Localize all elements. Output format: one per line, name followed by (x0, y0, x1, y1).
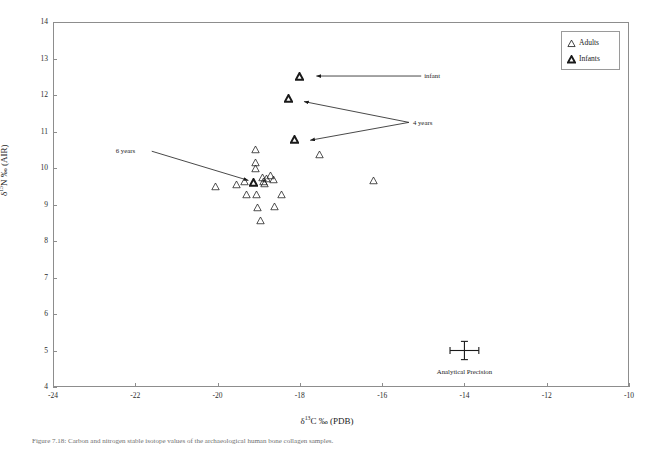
bold-triangle-icon (567, 50, 576, 68)
analytical-precision-label: Analytical Precision (384, 368, 544, 375)
y-tick-label: 11 (18, 128, 48, 136)
y-tick-label: 12 (18, 91, 48, 99)
x-tick-mark (464, 383, 465, 387)
legend-label-adults: Adults (579, 39, 599, 47)
x-tick-mark (53, 383, 54, 387)
legend-label-infants: Infants (579, 55, 600, 63)
x-tick-mark (629, 383, 630, 387)
y-tick-mark (53, 95, 57, 96)
y-tick-label: 9 (18, 201, 48, 209)
data-point-adults (242, 190, 251, 199)
x-tick-label: -18 (280, 392, 320, 400)
data-point-adults (270, 202, 279, 211)
callout-label-infant: infant (424, 73, 440, 80)
data-point-adults (251, 145, 260, 154)
legend: Adults Infants (561, 31, 620, 70)
figure-caption: Figure 7.18: Carbon and nitrogen stable … (32, 437, 632, 449)
y-tick-label: 7 (18, 274, 48, 282)
y-tick-mark (53, 59, 57, 60)
data-point-infants (249, 178, 258, 187)
x-tick-label: -20 (198, 392, 238, 400)
y-tick-mark (53, 205, 57, 206)
y-tick-label: 14 (18, 18, 48, 26)
x-axis-title: δ13C ‰ (PDB) (0, 415, 654, 426)
y-tick-label: 8 (18, 237, 48, 245)
data-point-adults (315, 150, 324, 159)
data-point-adults (369, 176, 378, 185)
x-tick-label: -22 (115, 392, 155, 400)
callout-label-4-years: 4 years (413, 120, 432, 127)
data-point-adults (252, 190, 261, 199)
y-tick-mark (53, 132, 57, 133)
x-tick-mark (547, 383, 548, 387)
y-tick-mark (53, 22, 57, 23)
y-tick-label: 13 (18, 55, 48, 63)
legend-item-infants[interactable]: Infants (567, 52, 614, 65)
x-tick-mark (218, 383, 219, 387)
x-tick-mark (382, 383, 383, 387)
y-tick-mark (53, 351, 57, 352)
data-point-infants (290, 135, 299, 144)
data-point-adults (240, 177, 249, 186)
y-tick-mark (53, 314, 57, 315)
plot-area (53, 22, 629, 387)
y-tick-label: 6 (18, 310, 48, 318)
data-point-adults (269, 175, 278, 184)
data-point-adults (253, 203, 262, 212)
y-tick-mark (53, 387, 57, 388)
x-tick-label: -10 (609, 392, 649, 400)
legend-item-adults[interactable]: Adults (567, 36, 614, 49)
data-point-adults (256, 216, 265, 225)
y-tick-mark (53, 241, 57, 242)
data-point-adults (277, 190, 286, 199)
y-tick-label: 4 (18, 383, 48, 391)
x-tick-label: -24 (33, 392, 73, 400)
data-point-infants (295, 72, 304, 81)
x-tick-mark (300, 383, 301, 387)
x-tick-label: -16 (362, 392, 402, 400)
callout-label-6-years: 6 years (116, 148, 135, 155)
x-tick-label: -14 (444, 392, 484, 400)
data-point-adults (211, 182, 220, 191)
figure-container: δ15N ‰ (AIR) δ13C ‰ (PDB) 45678910111213… (0, 0, 654, 450)
y-tick-mark (53, 278, 57, 279)
x-tick-mark (135, 383, 136, 387)
y-tick-mark (53, 168, 57, 169)
y-tick-label: 5 (18, 347, 48, 355)
x-tick-label: -12 (527, 392, 567, 400)
y-axis-title: δ15N ‰ (AIR) (0, 144, 9, 196)
data-point-infants (284, 94, 293, 103)
y-tick-label: 10 (18, 164, 48, 172)
